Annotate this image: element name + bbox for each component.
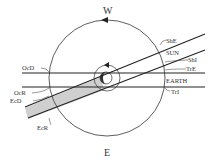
shadow-band — [25, 77, 104, 119]
label-she: ShE — [166, 37, 177, 44]
label-tre: TrE — [186, 65, 196, 72]
compass-west: W — [103, 5, 113, 16]
label-tri: TrI — [171, 88, 179, 95]
label-ecr: EcR — [37, 124, 49, 131]
sun-line-lower — [28, 50, 205, 118]
compass-east: E — [104, 147, 110, 158]
label-earth: EARTH — [166, 77, 188, 84]
orbit-direction-arrow-icon — [101, 17, 108, 23]
label-shi: ShI — [188, 56, 197, 63]
label-sun: SUN — [166, 49, 179, 56]
eclipse-diagram: W E ShE SUN ShI TrE EARTH TrI OcD OcR Ec… — [0, 0, 214, 165]
rotation-arrow-icon — [104, 62, 109, 68]
label-ecd: EcD — [10, 97, 22, 104]
sun-line-upper — [25, 34, 205, 107]
label-ocr: OcR — [14, 89, 27, 96]
label-ocd: OcD — [22, 64, 35, 71]
